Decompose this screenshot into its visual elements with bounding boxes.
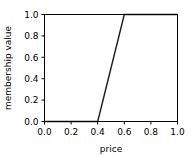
x-tick-label: 1.0 xyxy=(170,127,185,137)
y-tick-label: 0.0 xyxy=(24,117,39,127)
x-axis-title: price xyxy=(100,144,123,154)
x-tick-label: 0.8 xyxy=(144,127,159,137)
x-tick-label: 0.2 xyxy=(64,127,78,137)
x-tick-label: 0.4 xyxy=(91,127,106,137)
x-tick-label: 0.0 xyxy=(37,127,52,137)
x-tick-label: 0.6 xyxy=(117,127,132,137)
y-tick-label: 0.4 xyxy=(24,74,39,84)
chart-figure: 0.00.20.40.60.81.0 0.00.20.40.60.81.0 pr… xyxy=(0,0,192,156)
membership-function-plot: 0.00.20.40.60.81.0 0.00.20.40.60.81.0 pr… xyxy=(0,0,192,156)
y-tick-label: 1.0 xyxy=(24,10,39,20)
y-tick-label: 0.8 xyxy=(24,31,39,41)
y-axis-title: membership value xyxy=(3,26,13,111)
x-axis-tick-labels: 0.00.20.40.60.81.0 xyxy=(37,127,185,137)
y-tick-label: 0.2 xyxy=(24,95,38,105)
y-axis-tick-labels: 0.00.20.40.60.81.0 xyxy=(24,10,39,127)
y-tick-label: 0.6 xyxy=(24,53,39,63)
